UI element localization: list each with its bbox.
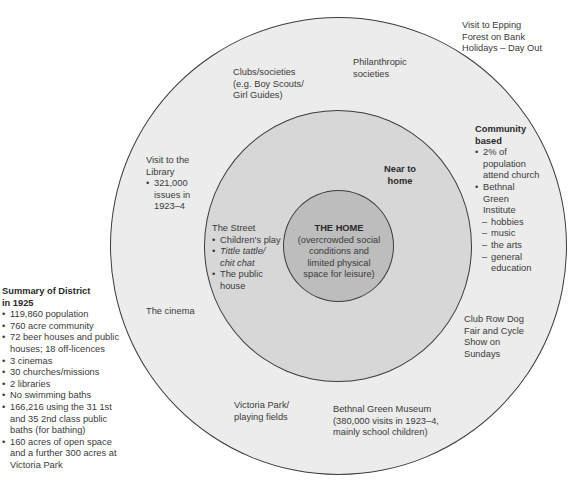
text-line: 3 cinemas bbox=[10, 356, 119, 368]
street-list: Children's play Tittle tattle/ chit chat… bbox=[212, 235, 281, 293]
summary-list: 119,860 population 760 acre community 72… bbox=[2, 309, 119, 471]
list-item: 160 acres of open space and a further 30… bbox=[2, 437, 119, 472]
text-line: Holidays – Day Out bbox=[462, 43, 542, 55]
text-line: Show on bbox=[464, 337, 524, 349]
text-line: Forest on Bank bbox=[462, 32, 542, 44]
text-line: 760 acre community bbox=[10, 321, 119, 333]
text-line: The public bbox=[220, 269, 281, 281]
home-title: THE HOME bbox=[288, 223, 390, 235]
text-line: education bbox=[491, 263, 539, 275]
list-item: 30 churches/missions bbox=[2, 367, 119, 379]
list-item: Children's play bbox=[212, 235, 281, 247]
victoria-park-label: Victoria Park/ playing fields bbox=[234, 400, 289, 423]
text-line: 160 acres of open space bbox=[10, 437, 119, 449]
text-line: Library bbox=[146, 167, 190, 179]
text-line: Tittle tattle/ bbox=[220, 246, 281, 258]
list-item: 760 acre community bbox=[2, 321, 119, 333]
text-line: Girl Guides) bbox=[233, 90, 304, 102]
text-line: The cinema bbox=[146, 306, 195, 318]
text-line: Near to bbox=[384, 164, 416, 176]
text-line: 2% of bbox=[483, 147, 539, 159]
text-line: Visit to Epping bbox=[462, 20, 542, 32]
text-line: (e.g. Boy Scouts/ bbox=[233, 79, 304, 91]
text-line: Institute bbox=[483, 205, 539, 217]
near-to-home-label: Near to home bbox=[384, 164, 416, 187]
list-item: 2% of population attend church bbox=[475, 147, 539, 182]
text-line: (380,000 visits in 1923–4, bbox=[333, 416, 439, 428]
museum-label: Bethnal Green Museum (380,000 visits in … bbox=[333, 404, 439, 439]
text-line: general bbox=[491, 252, 539, 264]
list-subitem: music bbox=[475, 228, 539, 240]
text-line: music bbox=[491, 228, 515, 238]
text-line: Green bbox=[483, 194, 539, 206]
text-line: Victoria Park/ bbox=[234, 400, 289, 412]
text-line: baths (for bathing) bbox=[10, 425, 119, 437]
philanthropic-label: Philanthropic societies bbox=[353, 57, 407, 80]
list-item: 2 libraries bbox=[2, 379, 119, 391]
text-line: Community bbox=[475, 124, 539, 136]
text-line: 166,216 using the 31 1st bbox=[10, 402, 119, 414]
club-row-label: Club Row Dog Fair and Cycle Show on Sund… bbox=[464, 314, 524, 360]
text-line: space for leisure) bbox=[288, 269, 390, 281]
text-line: limited physical bbox=[288, 258, 390, 270]
text-line: and 35 2nd class public bbox=[10, 414, 119, 426]
text-line: Victoria Park bbox=[10, 460, 119, 472]
list-item: 119,860 population bbox=[2, 309, 119, 321]
list-item: 321,000 issues in 1923–4 bbox=[146, 178, 190, 213]
the-home-label: THE HOME (overcrowded social conditions … bbox=[288, 223, 390, 281]
cinema-label: The cinema bbox=[146, 306, 195, 318]
library-list: 321,000 issues in 1923–4 bbox=[146, 178, 190, 213]
text-line: Fair and Cycle bbox=[464, 326, 524, 338]
list-item: Bethnal Green Institute bbox=[475, 182, 539, 217]
text-line: Children's play bbox=[220, 235, 281, 245]
text-line: Clubs/societies bbox=[233, 67, 304, 79]
text-line: No swimming baths bbox=[10, 390, 119, 402]
text-line: Bethnal Green Museum bbox=[333, 404, 439, 416]
text-line: 72 beer houses and public bbox=[10, 332, 119, 344]
text-line: societies bbox=[353, 69, 407, 81]
list-subitem: the arts bbox=[475, 240, 539, 252]
text-line: playing fields bbox=[234, 412, 289, 424]
text-line: Philanthropic bbox=[353, 57, 407, 69]
text-line: chit chat bbox=[220, 258, 281, 270]
list-subitem: general education bbox=[475, 252, 539, 275]
text-line: The Street bbox=[212, 223, 281, 235]
list-item: No swimming baths bbox=[2, 390, 119, 402]
text-line: the arts bbox=[491, 240, 522, 250]
community-based-label: Community based 2% of population attend … bbox=[475, 124, 539, 275]
text-line: conditions and bbox=[288, 246, 390, 258]
text-line: based bbox=[475, 136, 539, 148]
district-summary: Summary of District in 1925 119,860 popu… bbox=[2, 286, 119, 472]
list-item: The public house bbox=[212, 269, 281, 292]
text-line: mainly school children) bbox=[333, 427, 439, 439]
text-line: 30 churches/missions bbox=[10, 367, 119, 379]
the-street-label: The Street Children's play Tittle tattle… bbox=[212, 223, 281, 293]
text-line: hobbies bbox=[491, 217, 524, 227]
list-item: 72 beer houses and public houses; 18 off… bbox=[2, 332, 119, 355]
epping-forest-label: Visit to Epping Forest on Bank Holidays … bbox=[462, 20, 542, 55]
text-line: home bbox=[384, 176, 416, 188]
text-line: 2 libraries bbox=[10, 379, 119, 391]
library-label: Visit to the Library 321,000 issues in 1… bbox=[146, 155, 190, 213]
summary-title: Summary of District bbox=[2, 286, 119, 298]
clubs-societies-label: Clubs/societies (e.g. Boy Scouts/ Girl G… bbox=[233, 67, 304, 102]
list-subitem: hobbies bbox=[475, 217, 539, 229]
text-line: Bethnal bbox=[483, 182, 539, 194]
text-line: and a further 300 acres at bbox=[10, 448, 119, 460]
community-list: 2% of population attend church Bethnal G… bbox=[475, 147, 539, 275]
text-line: 1923–4 bbox=[154, 201, 190, 213]
list-item: 3 cinemas bbox=[2, 356, 119, 368]
text-line: population bbox=[483, 159, 539, 171]
text-line: Sundays bbox=[464, 349, 524, 361]
text-line: Visit to the bbox=[146, 155, 190, 167]
text-line: houses; 18 off-licences bbox=[10, 344, 119, 356]
summary-title: in 1925 bbox=[2, 298, 119, 310]
list-item: 166,216 using the 31 1st and 35 2nd clas… bbox=[2, 402, 119, 437]
text-line: 119,860 population bbox=[10, 309, 119, 321]
list-item: Tittle tattle/ chit chat bbox=[212, 246, 281, 269]
text-line: (overcrowded social bbox=[288, 235, 390, 247]
text-line: 321,000 bbox=[154, 178, 190, 190]
text-line: issues in bbox=[154, 190, 190, 202]
text-line: attend church bbox=[483, 170, 539, 182]
text-line: house bbox=[220, 281, 281, 293]
